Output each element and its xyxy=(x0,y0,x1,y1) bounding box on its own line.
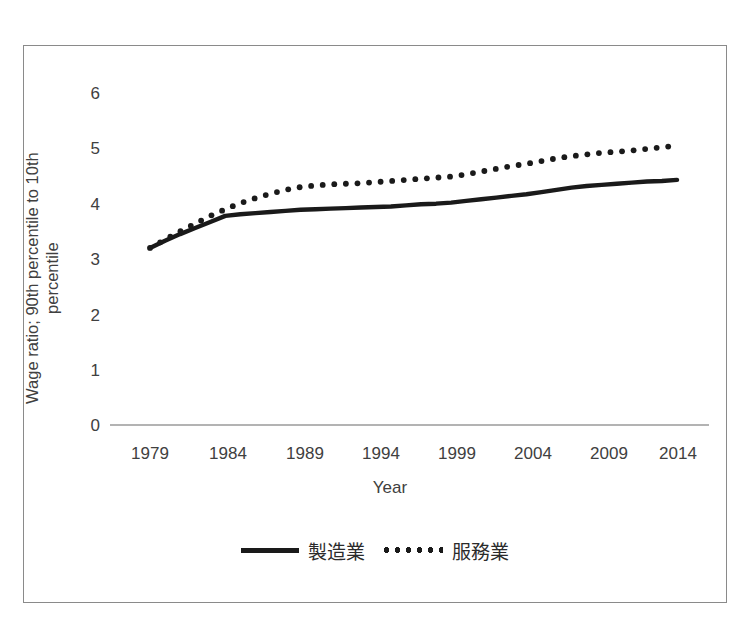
chart-legend: 製造業 服務業 xyxy=(225,533,525,567)
x-tick-1994: 1994 xyxy=(346,444,416,464)
y-tick-2: 2 xyxy=(74,306,100,326)
y-tick-4: 4 xyxy=(74,195,100,215)
series-line-manufacturing xyxy=(150,180,677,248)
legend-label-manufacturing: 製造業 xyxy=(308,537,365,564)
legend-entry-manufacturing: 製造業 xyxy=(241,537,365,564)
solid-line-swatch-icon xyxy=(241,548,299,553)
y-tick-1: 1 xyxy=(74,361,100,381)
legend-entry-services: 服務業 xyxy=(381,537,509,564)
y-tick-0: 0 xyxy=(74,416,100,436)
x-axis-title: Year xyxy=(300,478,480,498)
y-axis-title-line1: Wage ratio; 90th percentile to 10th xyxy=(23,152,41,404)
x-tick-1979: 1979 xyxy=(115,444,185,464)
x-tick-1989: 1989 xyxy=(270,444,340,464)
x-tick-2004: 2004 xyxy=(498,444,568,464)
y-tick-3: 3 xyxy=(74,250,100,270)
x-tick-1999: 1999 xyxy=(422,444,492,464)
chart-figure: 6 5 4 3 2 1 0 1979 1984 1989 1994 1999 2… xyxy=(0,0,739,626)
y-axis-title-line2: percentile xyxy=(43,242,61,314)
y-tick-5: 5 xyxy=(74,139,100,159)
dotted-line-swatch-icon xyxy=(381,547,443,553)
x-tick-1984: 1984 xyxy=(193,444,263,464)
x-tick-2014: 2014 xyxy=(643,444,713,464)
y-axis-title: Wage ratio; 90th percentile to 10th perc… xyxy=(22,118,62,438)
series-line-services xyxy=(147,144,671,251)
legend-label-services: 服務業 xyxy=(452,537,509,564)
y-tick-6: 6 xyxy=(74,84,100,104)
x-tick-2009: 2009 xyxy=(574,444,644,464)
